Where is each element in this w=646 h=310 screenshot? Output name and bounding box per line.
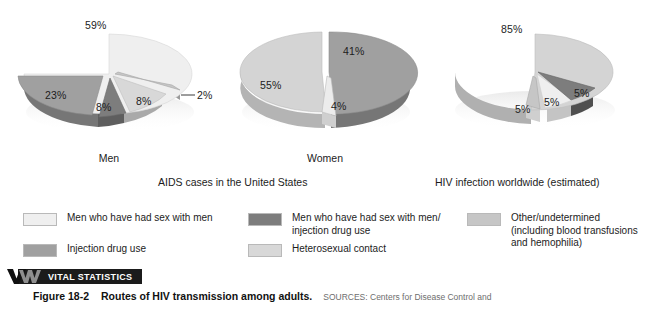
pie-world-label-hetero: 85%: [501, 23, 522, 35]
legend-item-msm[interactable]: Men who have had sex with men: [23, 212, 213, 226]
pie-chart-men: 59% 23% 8% 8% 2% Men: [14, 0, 204, 150]
pie-men-label-other: 2%: [197, 89, 212, 101]
vital-statistics-label: VITAL STATISTICS: [48, 272, 132, 282]
legend-swatch-msm-idu: [248, 213, 282, 226]
pie-women-label-idu: 41%: [343, 45, 364, 57]
pie-world-label-idu: 5%: [574, 87, 589, 99]
figure-hiv-transmission: 59% 23% 8% 8% 2% Men: [0, 0, 646, 310]
legend-item-hetero[interactable]: Heterosexual contact: [248, 243, 386, 257]
legend-item-msm-idu[interactable]: Men who have had sex with men/ injection…: [248, 212, 440, 237]
legend-label-idu: Injection drug use: [67, 243, 146, 256]
pie-men-label-msm-idu: 8%: [96, 101, 111, 113]
legend-swatch-other: [467, 213, 501, 226]
section-caption-world: HIV infection worldwide (estimated): [435, 176, 600, 188]
vital-statistics-logo-icon: [6, 269, 46, 284]
legend-label-msm-idu: Men who have had sex with men/ injection…: [292, 212, 440, 237]
pie-men-caption: Men: [14, 152, 204, 164]
pie-women-canvas: 41% 55% 4%: [230, 0, 420, 150]
pie-world-label-other: 5%: [515, 103, 530, 115]
figure-title: Routes of HIV transmission among adults.: [101, 290, 312, 302]
vital-statistics-banner: VITAL STATISTICS: [6, 269, 142, 284]
pie-world-svg: [443, 0, 633, 150]
legend-label-other: Other/undetermined (including blood tran…: [511, 212, 638, 250]
pie-chart-worldwide: 85% 5% 5% 5%: [443, 0, 633, 150]
legend-swatch-idu: [23, 244, 57, 257]
legend-swatch-hetero: [248, 244, 282, 257]
pie-world-label-msm: 5%: [544, 96, 559, 108]
legend-swatch-msm: [23, 213, 57, 226]
legend-item-idu[interactable]: Injection drug use: [23, 243, 146, 257]
charts-row: 59% 23% 8% 8% 2% Men: [0, 0, 646, 196]
pie-women-caption: Women: [230, 152, 420, 164]
figure-number: Figure 18-2: [33, 290, 89, 302]
legend: Men who have had sex with men Injection …: [0, 206, 646, 264]
pie-women-label-hetero: 55%: [260, 79, 281, 91]
figure-source: SOURCES: Centers for Disease Control and: [323, 292, 491, 302]
legend-label-hetero: Heterosexual contact: [292, 243, 386, 256]
pie-men-canvas: 59% 23% 8% 8% 2%: [14, 0, 204, 150]
legend-item-other[interactable]: Other/undetermined (including blood tran…: [467, 212, 638, 250]
pie-men-label-msm: 59%: [85, 19, 106, 31]
pie-men-svg: [14, 0, 204, 150]
pie-women-svg: [230, 0, 420, 150]
figure-caption: Figure 18-2 Routes of HIV transmission a…: [33, 290, 491, 302]
pie-men-label-idu: 23%: [45, 89, 66, 101]
pie-women-label-other: 4%: [331, 100, 346, 112]
pie-chart-women: 41% 55% 4% Women: [230, 0, 420, 150]
pie-world-canvas: 85% 5% 5% 5%: [443, 0, 633, 150]
section-caption-us: AIDS cases in the United States: [158, 176, 307, 188]
legend-label-msm: Men who have had sex with men: [67, 212, 213, 225]
pie-men-label-hetero: 8%: [136, 95, 151, 107]
